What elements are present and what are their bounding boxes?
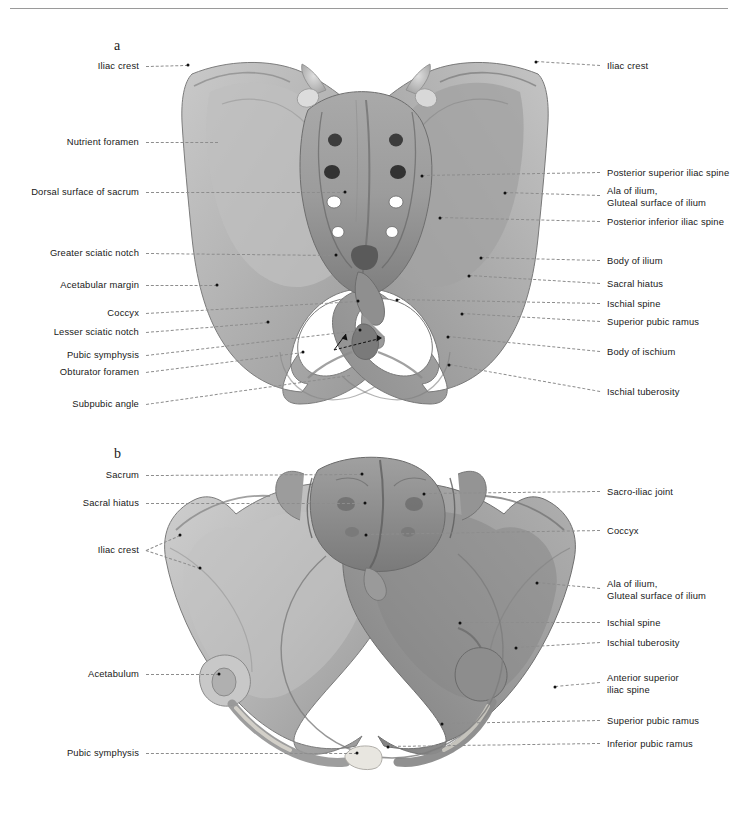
label-a-coccyx: Coccyx bbox=[107, 307, 139, 319]
marker-b-acetabulum bbox=[218, 673, 221, 676]
marker-a-obturator-foramen bbox=[302, 351, 305, 354]
marker-a-pubic-symphysis bbox=[359, 329, 362, 332]
label-b-sacro-iliac-joint: Sacro-iliac joint bbox=[607, 486, 673, 498]
label-a-dorsal-surface-of-sacrum: Dorsal surface of sacrum bbox=[31, 186, 139, 198]
label-b-sacral-hiatus: Sacral hiatus bbox=[83, 497, 139, 509]
marker-a-ischial-spine bbox=[396, 299, 399, 302]
label-a-pubic-symphysis: Pubic symphysis bbox=[67, 349, 139, 361]
label-a-body-of-ischium: Body of ischium bbox=[607, 346, 675, 358]
label-a-posterior-inferior-iliac-spine: Posterior inferior iliac spine bbox=[607, 216, 724, 228]
marker-a-body-of-ilium bbox=[480, 257, 483, 260]
marker-a-lesser-sciatic-notch bbox=[267, 321, 270, 324]
marker-a-body-of-ischium bbox=[447, 336, 450, 339]
label-a-sacral-hiatus: Sacral hiatus bbox=[607, 278, 663, 290]
marker-a-ala-of-ilium bbox=[504, 192, 507, 195]
label-a-posterior-superior-iliac-spine: Posterior superior iliac spine bbox=[607, 167, 729, 179]
marker-a-greater-sciatic-notch bbox=[335, 254, 338, 257]
label-a-greater-sciatic-notch: Greater sciatic notch bbox=[50, 247, 139, 259]
marker-a-iliac-crest bbox=[187, 64, 190, 67]
marker-a-superior-pubic-ramus bbox=[461, 313, 464, 316]
marker-b-ala-of-ilium bbox=[536, 582, 539, 585]
label-a-ischial-tuberosity: Ischial tuberosity bbox=[607, 386, 680, 398]
top-rule bbox=[10, 8, 728, 9]
label-a-acetabular-margin: Acetabular margin bbox=[60, 279, 139, 291]
marker-b-ischial-spine bbox=[459, 622, 462, 625]
label-a-iliac-crest: Iliac crest bbox=[98, 60, 139, 72]
label-a-lesser-sciatic-notch: Lesser sciatic notch bbox=[54, 326, 139, 338]
marker-a-acetabular-margin bbox=[216, 284, 219, 287]
marker-fork-b-iliac-crest bbox=[199, 567, 202, 570]
label-b-iliac-crest: Iliac crest bbox=[98, 544, 139, 556]
label-b-ischial-spine: Ischial spine bbox=[607, 617, 661, 629]
label-b-inferior-pubic-ramus: Inferior pubic ramus bbox=[607, 738, 693, 750]
marker-a-posterior-superior-iliac-spine bbox=[421, 175, 424, 178]
label-b-sacrum: Sacrum bbox=[106, 469, 139, 481]
marker-b-inferior-pubic-ramus bbox=[387, 746, 390, 749]
marker-b-sacro-iliac-joint bbox=[423, 493, 426, 496]
marker-b-superior-pubic-ramus bbox=[441, 723, 444, 726]
label-a-superior-pubic-ramus: Superior pubic ramus bbox=[607, 316, 699, 328]
label-a-ala-of-ilium: Ala of ilium, Gluteal surface of ilium bbox=[607, 185, 706, 208]
pelvis-superior-image bbox=[140, 452, 600, 770]
panel-letter-b: b bbox=[114, 446, 121, 462]
marker-b-pubic-symphysis bbox=[356, 752, 359, 755]
figure-page: a bbox=[0, 0, 735, 816]
marker-a-posterior-inferior-iliac-spine bbox=[439, 217, 442, 220]
label-a-body-of-ilium: Body of ilium bbox=[607, 255, 663, 267]
marker-b-coccyx bbox=[365, 534, 368, 537]
label-a-ischial-spine: Ischial spine bbox=[607, 298, 661, 310]
pelvis-posterior-image bbox=[130, 52, 600, 412]
marker-b-sacrum bbox=[361, 473, 364, 476]
panel-letter-a: a bbox=[114, 38, 120, 54]
label-b-superior-pubic-ramus: Superior pubic ramus bbox=[607, 715, 699, 727]
marker-a-sacral-hiatus bbox=[468, 275, 471, 278]
marker-b-iliac-crest bbox=[179, 534, 182, 537]
marker-b-anterior-superior bbox=[554, 686, 557, 689]
label-b-ischial-tuberosity: Ischial tuberosity bbox=[607, 637, 680, 649]
marker-a-iliac-crest bbox=[535, 61, 538, 64]
label-a-obturator-foramen: Obturator foramen bbox=[60, 366, 139, 378]
marker-a-coccyx bbox=[357, 300, 360, 303]
label-a-nutrient-foramen: Nutrient foramen bbox=[67, 136, 139, 148]
marker-b-ischial-tuberosity bbox=[515, 647, 518, 650]
label-b-ala-of-ilium: Ala of ilium, Gluteal surface of ilium bbox=[607, 578, 706, 601]
label-b-pubic-symphysis: Pubic symphysis bbox=[67, 747, 139, 759]
label-b-anterior-superior: Anterior superior iliac spine bbox=[607, 672, 679, 695]
marker-a-dorsal-surface-of-sacrum bbox=[344, 191, 347, 194]
label-b-coccyx: Coccyx bbox=[607, 525, 639, 537]
label-a-subpubic-angle: Subpubic angle bbox=[72, 398, 139, 410]
marker-b-sacral-hiatus bbox=[364, 502, 367, 505]
label-a-iliac-crest: Iliac crest bbox=[607, 60, 648, 72]
label-b-acetabulum: Acetabulum bbox=[88, 668, 139, 680]
marker-a-ischial-tuberosity bbox=[448, 364, 451, 367]
